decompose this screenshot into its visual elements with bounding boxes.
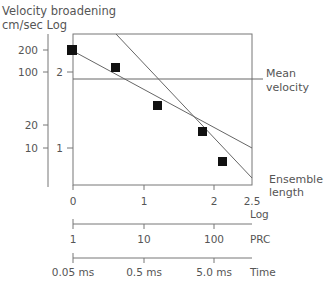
x-tick-2: 2 [211, 195, 218, 207]
data-point [153, 101, 162, 110]
prc-tick-10: 10 [137, 233, 150, 245]
x-axis-label-log: Log [250, 208, 269, 220]
data-points [67, 45, 227, 166]
inner-y-ticks: 2 1 [56, 66, 73, 154]
ensemble-length-label-line2: length [269, 186, 304, 199]
x-tick-0: 0 [70, 195, 77, 207]
prc-tick-1: 1 [70, 233, 77, 245]
time-tick-5-0ms: 5.0 ms [196, 266, 232, 278]
outer-y-tick-200: 200 [18, 44, 38, 56]
time-axis: 0.05 ms 0.5 ms 5.0 ms Time [52, 253, 276, 278]
prc-tick-100: 100 [204, 233, 224, 245]
outer-y-tick-100: 100 [18, 66, 38, 78]
data-point [198, 127, 207, 136]
outer-y-tick-20: 20 [25, 119, 38, 131]
ensemble-length-label-line1: Ensemble [269, 173, 323, 186]
x-tick-1: 1 [141, 195, 148, 207]
prc-axis: 1 10 100 PRC [70, 219, 271, 245]
chart: Velocity broadening cm/sec Log 200 100 2… [0, 0, 325, 291]
x-tick-2-5: 2.5 [244, 195, 261, 207]
fit-line-shallow [73, 51, 252, 148]
y-axis-label-line1: Velocity broadening [2, 4, 116, 18]
time-tick-0-05ms: 0.05 ms [52, 266, 94, 278]
fit-line-steep [116, 34, 252, 178]
time-tick-0-5ms: 0.5 ms [126, 266, 162, 278]
data-point [218, 157, 227, 166]
outer-y-ticks: 200 100 20 10 [18, 44, 48, 154]
mean-velocity-label-line2: velocity [266, 81, 309, 94]
inner-y-tick-2: 2 [56, 66, 63, 78]
x-axis-ticks: 0 1 2 2.5 Log [70, 185, 269, 220]
prc-axis-label: PRC [250, 233, 270, 245]
outer-y-tick-10: 10 [25, 142, 38, 154]
time-axis-label: Time [249, 266, 276, 278]
mean-velocity-label-line1: Mean [266, 67, 296, 80]
y-axis-label-line2: cm/sec Log [2, 18, 67, 32]
inner-y-tick-1: 1 [56, 142, 63, 154]
data-point [111, 63, 120, 72]
data-point [67, 45, 77, 55]
